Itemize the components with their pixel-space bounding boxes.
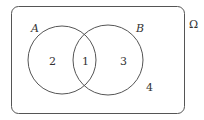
region-outside-label: 4 (146, 81, 153, 94)
venn-diagram: A B Ω 2 1 3 4 (0, 0, 204, 120)
region-intersection-label: 1 (82, 55, 89, 68)
set-a-label: A (30, 22, 39, 35)
region-b-only-label: 3 (120, 55, 127, 68)
region-a-only-label: 2 (49, 55, 56, 68)
set-b-label: B (135, 22, 144, 35)
universe-label: Ω (189, 18, 198, 31)
